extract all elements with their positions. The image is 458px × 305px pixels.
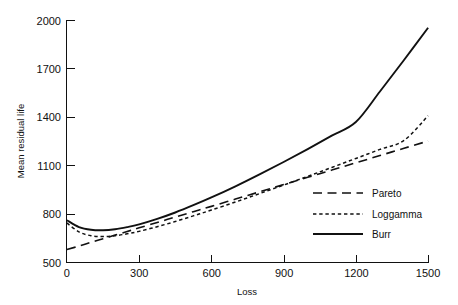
x-tick-label-0: 0 [64,267,70,279]
chart-svg: 2000 1700 1400 1100 800 500 Mean residua… [0,0,458,305]
legend-label-burr: Burr [372,229,392,240]
legend-label-loggamma: Loggamma [372,209,422,220]
x-tick-label-900: 900 [275,267,293,279]
y-tick-label-2000: 2000 [37,15,61,27]
series-line-burr [67,28,428,231]
chart-figure: 2000 1700 1400 1100 800 500 Mean residua… [0,0,458,305]
chart-legend: Pareto Loggamma Burr [313,188,422,240]
x-tick-label-300: 300 [130,267,148,279]
x-tick-label-600: 600 [203,267,221,279]
y-tick-labels: 2000 1700 1400 1100 800 500 [37,15,61,269]
y-tick-label-800: 800 [43,208,61,220]
x-tick-label-1200: 1200 [344,267,368,279]
y-axis-ticks [67,21,75,263]
legend-item-burr: Burr [313,229,392,240]
legend-item-loggamma: Loggamma [313,209,422,220]
x-axis-ticks [67,255,428,263]
x-axis: 0 300 600 900 1200 1500 Loss [64,255,441,298]
x-tick-labels: 0 300 600 900 1200 1500 [64,267,441,279]
y-tick-label-1700: 1700 [37,63,61,75]
legend-label-pareto: Pareto [372,188,402,199]
legend-item-pareto: Pareto [313,188,402,199]
y-tick-label-1400: 1400 [37,111,61,123]
y-tick-label-500: 500 [43,257,61,269]
y-tick-label-1100: 1100 [37,160,61,172]
x-axis-title: Loss [237,286,257,297]
y-axis: 2000 1700 1400 1100 800 500 Mean residua… [15,15,75,269]
x-tick-label-1500: 1500 [416,267,440,279]
y-axis-title: Mean residual life [15,104,26,178]
